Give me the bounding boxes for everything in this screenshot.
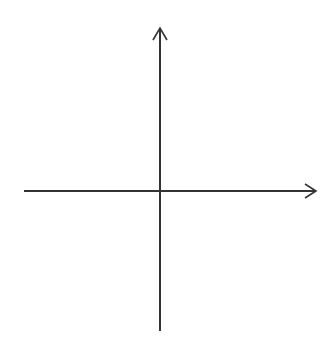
coordinate-plane [0,0,333,344]
